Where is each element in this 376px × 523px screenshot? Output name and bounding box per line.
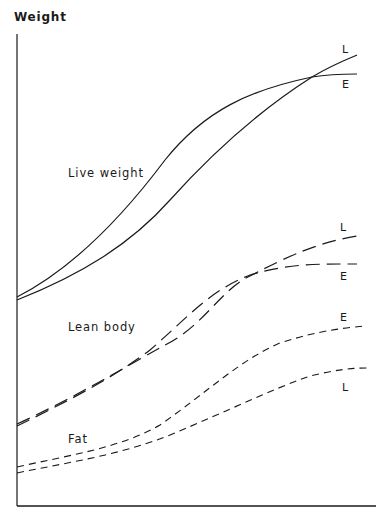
chart-plot xyxy=(0,0,376,523)
marker-fat-l: L xyxy=(342,381,348,394)
marker-live-l: L xyxy=(342,43,348,56)
series-live-weight-e xyxy=(17,74,357,297)
label-live-weight: Live weight xyxy=(68,166,144,180)
series-fat-l xyxy=(17,368,367,473)
marker-lean-l: L xyxy=(340,221,346,234)
marker-fat-e: E xyxy=(340,311,347,324)
marker-lean-e: E xyxy=(340,270,347,283)
label-lean-body: Lean body xyxy=(68,320,136,334)
series-lean-body-e xyxy=(17,264,357,426)
label-fat: Fat xyxy=(68,432,88,446)
marker-live-e: E xyxy=(342,78,349,91)
